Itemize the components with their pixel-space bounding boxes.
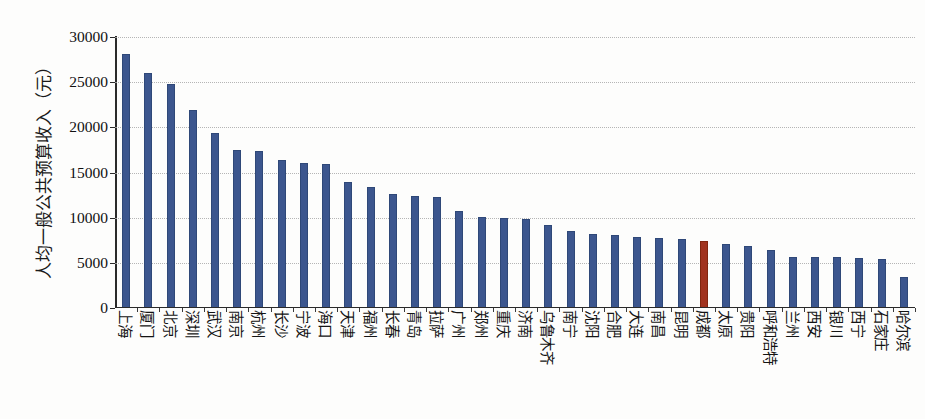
y-tickmark <box>110 218 115 219</box>
x-tick-label: 成都 <box>693 310 714 337</box>
bar <box>367 187 375 308</box>
x-tick-label: 哈尔滨 <box>893 310 914 351</box>
y-tick-label: 0 <box>44 299 108 317</box>
y-tick-label: 15000 <box>44 164 108 182</box>
y-tickmark <box>110 37 115 38</box>
x-tick-label: 武汉 <box>205 310 226 337</box>
x-tick-label: 兰州 <box>782 310 803 337</box>
y-tick-label: 20000 <box>44 118 108 136</box>
x-tick-label: 石家庄 <box>871 310 892 351</box>
x-tick-label: 合肥 <box>605 310 626 337</box>
bar <box>678 239 686 308</box>
x-tick-label: 上海 <box>116 310 137 337</box>
bar <box>344 182 352 308</box>
y-tickmark <box>110 173 115 174</box>
x-tick-label: 郑州 <box>471 310 492 337</box>
bar <box>811 257 819 308</box>
bar <box>722 244 730 308</box>
bar <box>300 163 308 308</box>
y-tick-label: 10000 <box>44 209 108 227</box>
y-tickmark <box>110 127 115 128</box>
bar <box>478 217 486 308</box>
x-tick-label: 长沙 <box>271 310 292 337</box>
bar <box>611 235 619 308</box>
bar <box>878 259 886 308</box>
x-tick-label: 厦门 <box>138 310 159 337</box>
bar <box>122 54 130 308</box>
chart-figure: 人均一般公共预算收入（元） 05000100001500020000250003… <box>0 0 925 419</box>
bar <box>500 218 508 308</box>
bar <box>789 257 797 308</box>
bar <box>633 237 641 308</box>
x-tick-label: 深圳 <box>182 310 203 337</box>
x-tick-label: 呼和浩特 <box>760 310 781 364</box>
y-tickmark <box>110 82 115 83</box>
x-tick-label: 大连 <box>627 310 648 337</box>
x-tick-label: 南昌 <box>649 310 670 337</box>
bar <box>567 231 575 308</box>
bar <box>167 84 175 308</box>
x-tick-label: 银川 <box>827 310 848 337</box>
bar <box>255 151 263 308</box>
bar <box>744 246 752 308</box>
x-tick-label: 长春 <box>382 310 403 337</box>
x-tick-label: 太原 <box>716 310 737 337</box>
x-tick-label: 青岛 <box>405 310 426 337</box>
x-tick-label: 天津 <box>338 310 359 337</box>
bar <box>455 211 463 308</box>
x-tick-label: 昆明 <box>671 310 692 337</box>
bar <box>211 133 219 308</box>
x-tick-label: 南宁 <box>560 310 581 337</box>
bar <box>700 241 708 308</box>
x-tick-label: 南京 <box>227 310 248 337</box>
bar <box>411 196 419 308</box>
x-tickmark <box>915 308 916 312</box>
plot-area <box>115 37 915 308</box>
x-axis-tick-labels: 上海厦门北京深圳武汉南京杭州长沙宁波海口天津福州长春青岛拉萨广州郑州重庆济南乌鲁… <box>115 310 915 419</box>
y-tick-label: 5000 <box>44 254 108 272</box>
y-tick-label: 30000 <box>44 28 108 46</box>
x-tick-label: 西宁 <box>849 310 870 337</box>
bar <box>233 150 241 308</box>
x-tick-label: 杭州 <box>249 310 270 337</box>
x-tick-label: 沈阳 <box>582 310 603 337</box>
x-tick-label: 海口 <box>316 310 337 337</box>
bar <box>144 73 152 308</box>
x-tick-label: 宁波 <box>293 310 314 337</box>
x-tick-label: 福州 <box>360 310 381 337</box>
x-tick-label: 北京 <box>160 310 181 337</box>
x-tick-label: 重庆 <box>493 310 514 337</box>
x-tick-label: 济南 <box>516 310 537 337</box>
bar <box>278 160 286 308</box>
y-axis-tick-labels: 050001000015000200002500030000 <box>44 0 108 419</box>
bar <box>189 110 197 308</box>
bar <box>389 194 397 308</box>
bar <box>544 225 552 308</box>
bar <box>322 164 330 308</box>
x-tick-label: 广州 <box>449 310 470 337</box>
bar <box>433 197 441 308</box>
bar <box>522 219 530 308</box>
x-tick-label: 西安 <box>805 310 826 337</box>
y-tickmark <box>110 263 115 264</box>
x-tick-label: 乌鲁木齐 <box>538 310 559 364</box>
bar-series <box>115 37 915 308</box>
x-tick-label: 贵阳 <box>738 310 759 337</box>
y-tickmark <box>110 308 115 309</box>
bar <box>833 257 841 308</box>
bar <box>767 250 775 308</box>
y-tick-label: 25000 <box>44 73 108 91</box>
bar <box>655 238 663 308</box>
bar <box>855 258 863 308</box>
bar <box>900 277 908 308</box>
x-tick-label: 拉萨 <box>427 310 448 337</box>
bar <box>589 234 597 308</box>
